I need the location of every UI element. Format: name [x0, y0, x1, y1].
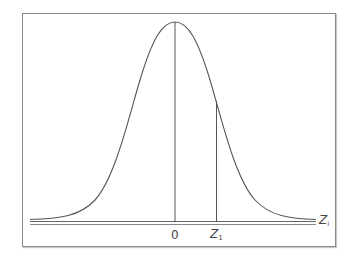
z1-label-text: Z [210, 227, 218, 241]
axis-label-text: Z [319, 213, 327, 227]
mean-label: 0 [171, 228, 179, 242]
bell-curve [30, 22, 316, 220]
normal-curve-plot [0, 0, 353, 262]
axis-label-subscript: i [327, 220, 329, 228]
z1-label: Z1 [210, 227, 223, 242]
axis-label: Zi [319, 213, 329, 228]
z1-label-subscript: 1 [218, 234, 222, 242]
